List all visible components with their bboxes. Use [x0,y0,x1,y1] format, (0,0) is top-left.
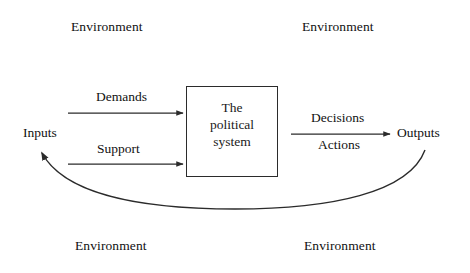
political-system-box-label: The political system [186,99,278,150]
environment-label-bottom-right: Environment [304,239,376,253]
system-box-line-3: system [186,133,278,150]
outputs-label: Outputs [397,126,440,140]
inputs-label: Inputs [23,126,57,140]
demands-label: Demands [96,90,147,104]
actions-label: Actions [318,138,360,152]
environment-label-bottom-left: Environment [75,239,147,253]
environment-label-top-left: Environment [71,20,143,34]
system-box-line-1: The [186,99,278,116]
environment-label-top-right: Environment [302,20,374,34]
decisions-label: Decisions [311,111,364,125]
system-box-line-2: political [186,116,278,133]
political-system-diagram: The political system Environment Environ… [0,0,470,273]
support-label: Support [97,142,140,156]
